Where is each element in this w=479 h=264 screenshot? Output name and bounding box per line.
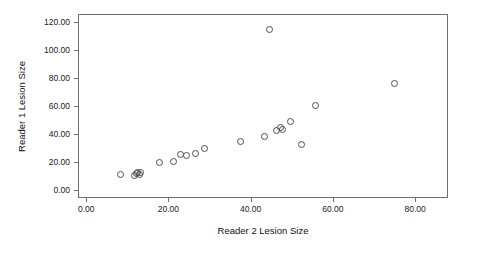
data-point [266,26,273,33]
data-point [201,145,208,152]
y-tick-label: 120.00 [44,17,70,27]
data-point [312,102,319,109]
data-point [237,138,244,145]
plot-frame [78,14,448,198]
data-point [117,171,124,178]
x-tick-mark [251,198,252,202]
x-tick-label: 80.00 [404,204,425,214]
data-point [391,80,398,87]
y-tick-mark [74,106,78,107]
x-tick-label: 20.00 [158,204,179,214]
y-tick-mark [74,134,78,135]
x-tick-mark [415,198,416,202]
x-axis-label: Reader 2 Lesion Size [78,225,448,236]
x-tick-label: 40.00 [240,204,261,214]
y-tick-mark [74,162,78,163]
x-tick-mark [333,198,334,202]
y-tick-label: 40.00 [49,129,70,139]
y-tick-label: 100.00 [44,45,70,55]
data-point [156,159,163,166]
x-tick-label: 0.00 [78,204,95,214]
y-tick-label: 20.00 [49,157,70,167]
x-tick-mark [86,198,87,202]
x-tick-label: 60.00 [322,204,343,214]
y-tick-mark [74,78,78,79]
data-point [183,152,190,159]
y-tick-label: 0.00 [53,185,70,195]
plot-area [79,15,447,197]
y-tick-mark [74,50,78,51]
y-tick-mark [74,22,78,23]
y-tick-label: 60.00 [49,101,70,111]
data-point [170,158,177,165]
y-tick-mark [74,190,78,191]
y-axis-label-text: Reader 1 Lesion Size [16,61,27,152]
data-point [261,133,268,140]
scatter-chart: Reader 1 Lesion Size 0.0020.0040.0060.00… [0,0,479,264]
y-axis-label: Reader 1 Lesion Size [14,14,28,198]
data-point [137,169,144,176]
data-point [192,150,199,157]
data-point [287,118,294,125]
y-tick-label: 80.00 [49,73,70,83]
x-axis-label-text: Reader 2 Lesion Size [218,225,309,236]
data-point [279,126,286,133]
data-point [298,141,305,148]
x-tick-mark [168,198,169,202]
